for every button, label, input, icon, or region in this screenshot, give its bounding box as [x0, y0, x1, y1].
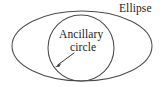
ellipse-label: Ellipse	[119, 2, 152, 14]
ancillary-circle-leader-arrowhead	[55, 63, 62, 67]
ancillary-circle-leader-line	[58, 53, 75, 65]
ancillary-circle-label-line2: circle	[70, 41, 96, 53]
figure-container: Ellipse Ancillary circle	[0, 0, 162, 87]
ancillary-circle-label-line1: Ancillary	[59, 28, 103, 40]
